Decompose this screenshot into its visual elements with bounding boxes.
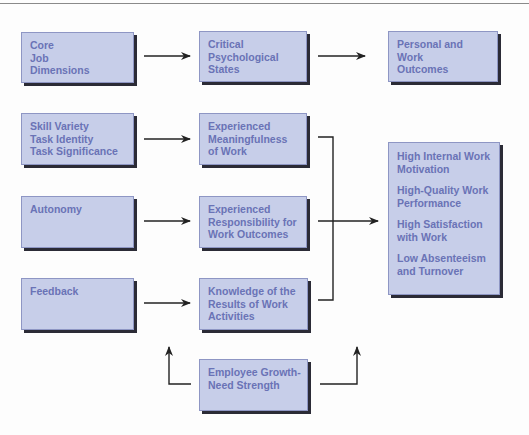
connectors	[0, 0, 529, 435]
moderator-right-arrow-icon	[320, 347, 357, 384]
moderator-left-arrow-icon	[169, 347, 191, 384]
bracket-connector	[318, 137, 333, 300]
